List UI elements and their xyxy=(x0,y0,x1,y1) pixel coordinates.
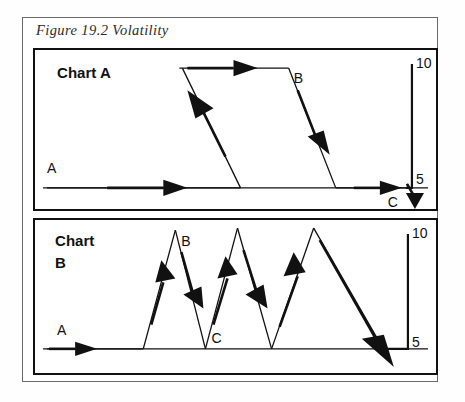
chart-b-arrowhead-5 xyxy=(284,252,306,276)
chart-b-arrow-shaft-5 xyxy=(280,276,298,326)
chart-b-title-line1: Chart xyxy=(55,232,94,249)
chart-a-arrowhead-2 xyxy=(187,90,213,118)
chart-a-arrow-shaft-2 xyxy=(203,112,225,156)
chart-a-label-b: B xyxy=(294,70,303,86)
chart-b-scale-bar xyxy=(382,234,408,349)
chart-b-graphic: Chart B A B C 10 5 xyxy=(35,220,436,373)
chart-a-scale-bar xyxy=(406,64,412,188)
chart-b-arrow-shaft-3 xyxy=(213,278,227,324)
chart-b-label-c: C xyxy=(211,330,221,346)
chart-b-arrow-shaft-4 xyxy=(244,250,258,294)
chart-a-label-a: A xyxy=(47,160,57,176)
chart-a-scale-top: 10 xyxy=(416,55,432,71)
chart-a-arrowhead-3 xyxy=(233,60,257,76)
chart-b-arrowhead-6 xyxy=(362,335,394,367)
chart-a-title: Chart A xyxy=(57,64,111,81)
chart-b-arrowhead-0 xyxy=(75,342,97,356)
chart-a-arrowhead-5 xyxy=(380,181,402,195)
chart-b-arrow-shaft-2 xyxy=(181,252,193,294)
chart-b-panel: Chart B A B C 10 5 xyxy=(33,218,438,375)
chart-b-scale-bottom: 5 xyxy=(412,334,420,350)
chart-a-label-c: C xyxy=(388,194,398,209)
chart-b-arrow-shaft-1 xyxy=(151,282,163,324)
chart-b-title-line2: B xyxy=(55,254,66,271)
chart-b-arrowhead-3 xyxy=(217,256,237,278)
chart-a-panel: Chart A A B C 10 5 xyxy=(33,48,438,211)
chart-b-label-a: A xyxy=(57,322,67,338)
chart-a-arrowhead-4 xyxy=(308,131,330,155)
figure-caption: Figure 19.2 Volatility xyxy=(36,22,169,39)
chart-a-arrowhead-1 xyxy=(163,180,187,196)
chart-b-arrowhead-1 xyxy=(155,260,175,282)
figure-root: Figure 19.2 Volatility xyxy=(0,0,465,402)
chart-a-graphic: Chart A A B C 10 5 xyxy=(35,50,436,209)
chart-a-arrowhead-6 xyxy=(406,193,424,209)
chart-b-label-b: B xyxy=(181,233,190,249)
chart-b-segment-up-1 xyxy=(143,230,175,349)
chart-b-arrow-shaft-6 xyxy=(320,240,376,339)
chart-a-arrow-shaft-4 xyxy=(298,90,316,136)
chart-b-scale-top: 10 xyxy=(412,225,428,241)
chart-a-scale-bottom: 5 xyxy=(416,171,424,187)
